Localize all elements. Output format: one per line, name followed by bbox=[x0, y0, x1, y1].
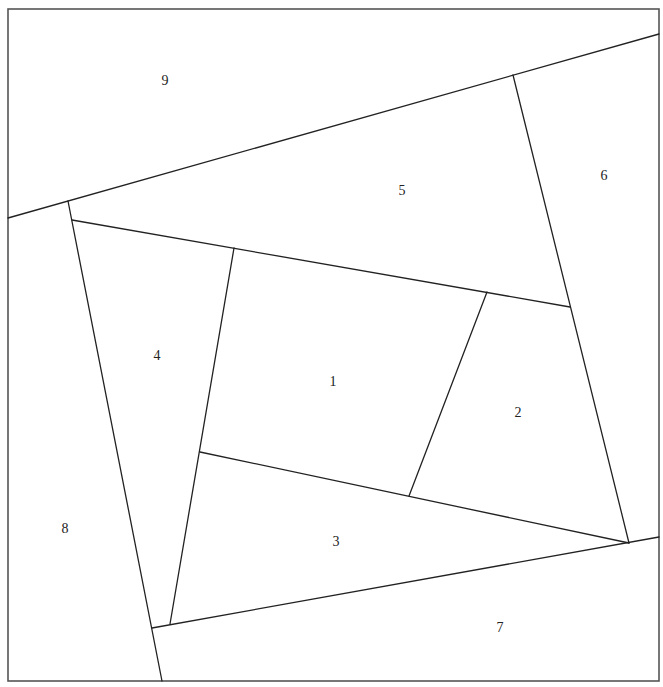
piece-label-1: 1 bbox=[330, 374, 337, 389]
piece-label-9: 9 bbox=[162, 73, 169, 88]
quilt-block-diagram: 123456789 bbox=[0, 0, 663, 687]
edge-e4-inner-slant bbox=[170, 248, 234, 624]
edge-e8-left-slant bbox=[68, 201, 162, 681]
outer-frame bbox=[8, 9, 659, 681]
piece-label-8: 8 bbox=[62, 521, 69, 536]
edge-e2-left-slant bbox=[409, 292, 487, 496]
piece-label-5: 5 bbox=[399, 183, 406, 198]
edge-e6-right-slant bbox=[513, 75, 629, 543]
piece-label-7: 7 bbox=[497, 620, 504, 635]
edge-e5-lower-edge bbox=[72, 220, 570, 307]
piece-edges bbox=[8, 34, 659, 681]
piece-label-3: 3 bbox=[333, 534, 340, 549]
piece-label-6: 6 bbox=[601, 168, 608, 183]
piece-label-4: 4 bbox=[154, 348, 161, 363]
edge-e7-bottom-rise bbox=[152, 537, 659, 628]
piece-label-2: 2 bbox=[515, 405, 522, 420]
edge-e3-upper-edge bbox=[200, 452, 629, 543]
edge-e9-top-diagonal bbox=[8, 34, 659, 218]
piece-labels: 123456789 bbox=[62, 73, 608, 635]
